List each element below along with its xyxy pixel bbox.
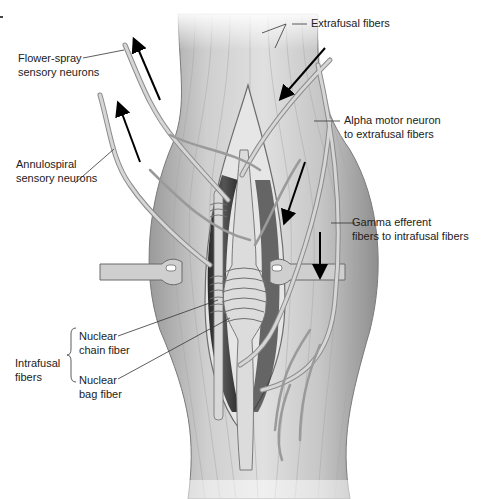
label-nuclear-bag-line2: bag fiber — [79, 388, 122, 401]
flower-spray-afferent-arrow — [136, 44, 160, 100]
cropped-edge-text — [0, 16, 3, 18]
label-intrafusal-line1: Intrafusal — [15, 357, 60, 370]
label-extrafusal-fibers: Extrafusal fibers — [311, 17, 390, 30]
muscle-spindle-diagram: Extrafusal fibers Flower-spray sensory n… — [0, 0, 486, 499]
label-nuclear-chain-line1: Nuclear — [79, 330, 117, 343]
label-alpha-motor-line2: to extrafusal fibers — [344, 128, 434, 141]
label-alpha-motor-line1: Alpha motor neuron — [344, 114, 441, 127]
label-nuclear-bag-line1: Nuclear — [79, 374, 117, 387]
label-flower-spray-line2: sensory neurons — [18, 66, 99, 79]
label-flower-spray-line1: Flower-spray — [18, 52, 82, 65]
label-intrafusal-line2: fibers — [15, 371, 42, 384]
label-annulospiral-line1: Annulospiral — [16, 158, 77, 171]
label-gamma-efferent-line1: Gamma efferent — [352, 216, 431, 229]
label-gamma-efferent-line2: fibers to intrafusal fibers — [352, 230, 469, 243]
annulospiral-afferent-arrow — [120, 108, 140, 162]
label-nuclear-chain-line2: chain fiber — [79, 344, 130, 357]
label-annulospiral-line2: sensory neurons — [16, 172, 97, 185]
